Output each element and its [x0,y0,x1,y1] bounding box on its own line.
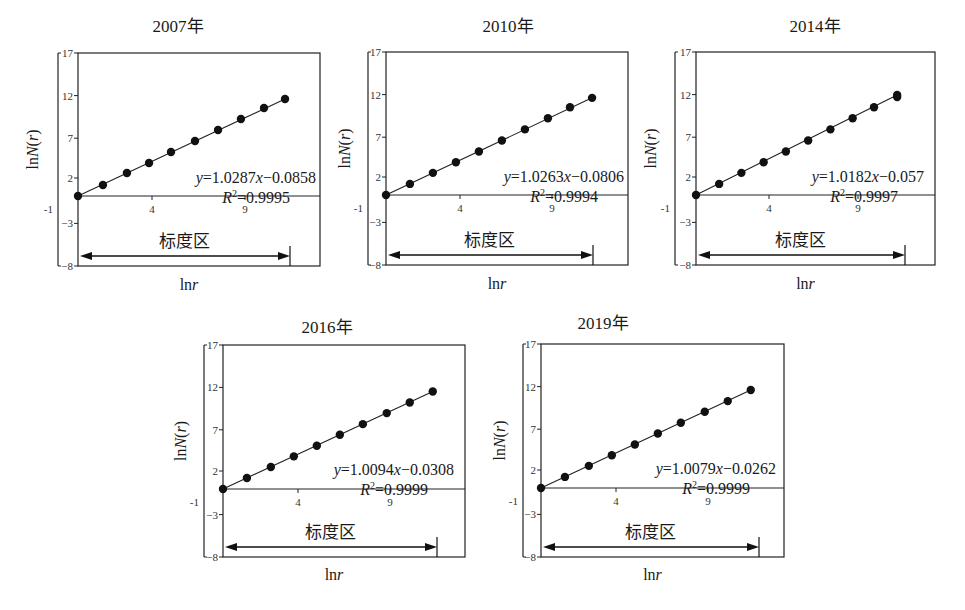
arrow-left-icon [698,251,710,259]
data-point [429,169,437,177]
chart-title: 2019年 [578,314,629,333]
y-tick-label: 17 [62,47,74,59]
data-point [167,148,175,156]
y-axis-label: lnN(r) [336,128,354,168]
data-point [498,136,506,144]
x-axis-label: lnr [796,275,815,292]
y-tick-label: 12 [207,381,218,393]
y-tick-label: −8 [369,259,381,271]
data-point [74,192,82,200]
data-point [561,473,569,481]
fractal-dimension-figure: 2007年171272-1−3−849lnN(r)lnry=1.0287x−0.… [0,0,965,610]
y-tick-label: 2 [68,172,74,184]
data-point [759,158,767,166]
r-squared: R2=0.9994 [529,187,598,205]
y-tick-label: −3 [369,216,381,228]
data-point [804,136,812,144]
y-tick-label: 17 [525,338,537,350]
y-axis-label: lnN(r) [24,129,42,169]
arrow-right-icon [278,252,290,260]
arrow-right-icon [893,251,905,259]
data-point [692,191,700,199]
y-tick-label: 2 [213,465,219,477]
arrow-left-icon [388,251,400,259]
data-point [715,180,723,188]
chart-title: 2010年 [483,17,534,36]
x-axis-label: lnr [488,275,507,292]
y-tick-label: −8 [679,259,691,271]
chart-panel-2007年: 2007年171272-1−3−849lnN(r)lnry=1.0287x−0.… [24,17,320,293]
y-tick-label: 7 [68,132,74,144]
data-point [452,158,460,166]
y-tick-label: −3 [679,216,691,228]
arrow-right-icon [425,543,437,551]
scaling-region-label: 标度区 [464,230,515,250]
y-tick-label: −3 [206,509,218,521]
data-point [588,94,596,102]
chart-panel-2014年: 2014年171272-1−3−849lnN(r)lnry=1.0182x−0.… [642,17,935,292]
y-tick-label: 17 [680,46,692,58]
x-axis-label: lnr [325,566,344,583]
data-point [826,125,834,133]
data-point [521,125,529,133]
data-point [724,397,732,405]
y-tick-label: 17 [207,339,219,351]
x-tick-label: 4 [613,495,619,507]
x-tick-label: 4 [457,202,463,214]
y-tick-label: 7 [686,131,692,143]
y-tick-label: -1 [509,495,518,507]
regression-equation: y=1.0263x−0.0806 [502,168,624,186]
data-point [145,159,153,167]
r-squared: R2=0.9997 [829,187,898,205]
data-point [336,431,344,439]
y-tick-label: −3 [61,217,73,229]
regression-equation: y=1.0094x−0.0308 [332,461,454,479]
data-point [566,103,574,111]
data-point [537,484,545,492]
y-tick-label: -1 [44,203,53,215]
data-point [475,147,483,155]
scaling-region-bracket: 标度区 [80,231,290,266]
y-tick-label: 2 [531,464,537,476]
scaling-region-label: 标度区 [625,522,676,542]
chart-panel-2016年: 2016年171272-1−3−849lnN(r)lnry=1.0094x−0.… [172,318,465,583]
arrow-right-icon [747,543,759,551]
chart-title: 2016年 [302,318,353,337]
data-point [848,114,856,122]
data-point [290,452,298,460]
data-point [429,387,437,395]
data-point [677,419,685,427]
data-point [585,462,593,470]
data-point [406,180,414,188]
x-axis-label: lnr [180,276,199,293]
regression-equation: y=1.0182x−0.057 [810,168,924,186]
data-point [237,115,245,123]
data-point [701,408,709,416]
y-tick-label: 2 [686,171,692,183]
regression-equation: y=1.0287x−0.0858 [194,169,316,187]
data-point [782,147,790,155]
data-point [99,181,107,189]
x-tick-label: 4 [149,203,155,215]
data-point [383,409,391,417]
y-tick-label: −8 [524,551,536,563]
y-tick-label: 12 [370,89,381,101]
chart-panel-2019年: 2019年171272-1−3−849lnN(r)lnry=1.0079x−0.… [491,314,784,583]
scaling-region-bracket: 标度区 [388,230,593,265]
y-tick-label: -1 [354,202,363,214]
y-tick-label: 7 [376,131,382,143]
scaling-region-label: 标度区 [159,231,210,251]
data-point [281,95,289,103]
y-axis-label: lnN(r) [491,420,509,460]
y-tick-label: 12 [525,381,536,393]
y-tick-label: 7 [531,423,537,435]
scaling-region-bracket: 标度区 [225,522,437,557]
data-point [870,103,878,111]
data-point [631,440,639,448]
data-point [747,386,755,394]
y-axis-label: lnN(r) [172,421,190,461]
arrow-left-icon [225,543,237,551]
data-point [313,442,321,450]
x-tick-label: 4 [766,202,772,214]
y-tick-label: 12 [680,89,691,101]
